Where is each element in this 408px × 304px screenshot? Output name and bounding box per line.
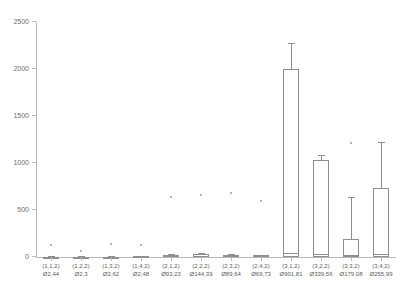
- x-tick-mark-(3,1,2): [291, 257, 292, 261]
- median-line: [373, 254, 389, 255]
- x-label-category: (1,2,2): [66, 262, 96, 270]
- y-tick-label: 1000: [13, 158, 29, 168]
- y-tick-label: 1500: [13, 111, 29, 121]
- x-tick-mark-(1,2,2): [81, 257, 82, 261]
- x-label-mean: Ø2,3: [66, 270, 96, 278]
- x-label-mean: Ø2,44: [36, 270, 66, 278]
- plot-area: [36, 22, 396, 257]
- x-label-category: (2,3,2): [216, 262, 246, 270]
- y-tick-1500: 1500: [0, 111, 36, 121]
- whisker-upper: [381, 142, 382, 188]
- x-label-category: (2,2,2): [186, 262, 216, 270]
- x-label-mean: Ø2,62: [96, 270, 126, 278]
- y-tick-label: 2500: [13, 17, 29, 27]
- x-label-mean: Ø901,81: [276, 270, 306, 278]
- box-iqr: [373, 188, 389, 257]
- x-tick-mark-(2,3,2): [231, 257, 232, 261]
- x-label-mean: Ø89,64: [216, 270, 246, 278]
- y-tick-500: 500: [0, 205, 36, 215]
- x-label-mean: Ø255,99: [366, 270, 396, 278]
- x-label-(3,2,2): (3,2,2)Ø339,56: [306, 262, 336, 278]
- x-label-category: (1,4,2): [126, 262, 156, 270]
- x-label-mean: Ø69,73: [246, 270, 276, 278]
- y-tick-label: 500: [17, 205, 29, 215]
- x-label-mean: Ø144,39: [186, 270, 216, 278]
- x-label-category: (2,4,2): [246, 262, 276, 270]
- y-tick-2500: 2500: [0, 17, 36, 27]
- x-label-category: (3,2,2): [306, 262, 336, 270]
- x-label-category: (3,1,2): [276, 262, 306, 270]
- x-label-mean: Ø339,56: [306, 270, 336, 278]
- x-label-mean: Ø179,08: [336, 270, 366, 278]
- x-label-(3,3,2): (3,3,2)Ø179,08: [336, 262, 366, 278]
- x-tick-mark-(1,3,2): [111, 257, 112, 261]
- x-tick-mark-(2,1,2): [171, 257, 172, 261]
- x-label-category: (2,1,2): [156, 262, 186, 270]
- x-label-category: (1,1,2): [36, 262, 66, 270]
- x-tick-mark-(3,2,2): [321, 257, 322, 261]
- x-label-(3,4,2): (3,4,2)Ø255,99: [366, 262, 396, 278]
- y-tick-0: 0: [0, 252, 36, 262]
- y-tick-label: 2000: [13, 64, 29, 74]
- x-label-category: (1,3,2): [96, 262, 126, 270]
- x-tick-mark-(1,4,2): [141, 257, 142, 261]
- x-label-(2,2,2): (2,2,2)Ø144,39: [186, 262, 216, 278]
- x-label-category: (3,4,2): [366, 262, 396, 270]
- x-label-(2,4,2): (2,4,2)Ø69,73: [246, 262, 276, 278]
- x-label-(2,1,2): (2,1,2)Ø93,23: [156, 262, 186, 278]
- y-tick-1000: 1000: [0, 158, 36, 168]
- x-label-(2,3,2): (2,3,2)Ø89,64: [216, 262, 246, 278]
- x-label-(1,2,2): (1,2,2)Ø2,3: [66, 262, 96, 278]
- x-tick-mark-(3,3,2): [351, 257, 352, 261]
- y-tick-2000: 2000: [0, 64, 36, 74]
- whisker-cap-upper: [378, 142, 385, 143]
- x-tick-mark-(2,4,2): [261, 257, 262, 261]
- y-tick-label: 0: [25, 252, 29, 262]
- x-label-mean: Ø2,48: [126, 270, 156, 278]
- x-tick-mark-(3,4,2): [381, 257, 382, 261]
- x-tick-mark-(1,1,2): [51, 257, 52, 261]
- x-label-(3,1,2): (3,1,2)Ø901,81: [276, 262, 306, 278]
- x-label-category: (3,3,2): [336, 262, 366, 270]
- x-axis-line: [36, 257, 396, 258]
- x-label-(1,1,2): (1,1,2)Ø2,44: [36, 262, 66, 278]
- boxplot-chart: 05001000150020002500 (1,1,2)Ø2,44(1,2,2)…: [0, 0, 408, 304]
- boxplot-(3,4,2): [36, 22, 396, 257]
- x-label-(1,3,2): (1,3,2)Ø2,62: [96, 262, 126, 278]
- x-label-mean: Ø93,23: [156, 270, 186, 278]
- x-label-(1,4,2): (1,4,2)Ø2,48: [126, 262, 156, 278]
- x-tick-mark-(2,2,2): [201, 257, 202, 261]
